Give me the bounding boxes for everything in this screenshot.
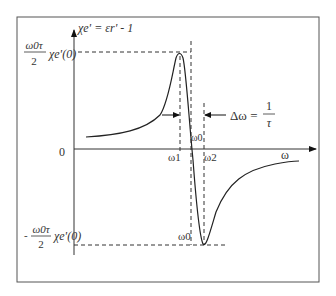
bandwidth-label-numerator: 1 (266, 99, 272, 113)
dispersion-diagram: χe' = εr' - 1 ω0τ 2 χe'(0) 0 - ω0τ 2 χe'… (0, 0, 336, 296)
max-label-denominator: 2 (31, 55, 37, 67)
omega1-label: ω1 (168, 151, 181, 163)
omega0-upper-label: ω0 (191, 132, 203, 143)
max-label-suffix: χe'(0) (48, 47, 76, 61)
min-label-sign: - (24, 229, 28, 241)
origin-label: 0 (59, 145, 65, 159)
max-label-numerator: ω0τ (25, 39, 43, 51)
min-label-numerator: ω0τ (32, 223, 50, 235)
x-axis-label: ω (281, 148, 289, 162)
omega2-label: ω2 (204, 151, 217, 163)
y-axis-label: χe' = εr' - 1 (77, 21, 133, 35)
min-label-denominator: 2 (38, 238, 44, 250)
bandwidth-label-lhs: Δω = (230, 108, 258, 123)
omega0-lower-label: ω0 (178, 230, 191, 242)
bandwidth-label-denominator: τ (267, 116, 272, 130)
min-label-suffix: χe'(0) (53, 229, 81, 243)
